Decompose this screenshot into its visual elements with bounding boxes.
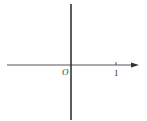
arrow-head-icon	[131, 63, 139, 68]
number-line-diagram: O 1	[0, 0, 147, 121]
tick-label-1: 1	[114, 68, 119, 78]
origin-label: O	[62, 67, 69, 77]
